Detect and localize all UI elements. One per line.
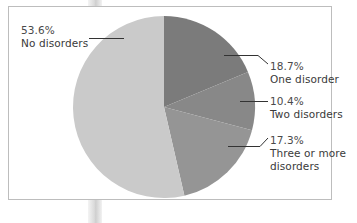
label-no-disorders: 53.6% No disorders <box>21 24 88 50</box>
label-no-disorders-name: No disorders <box>21 37 88 50</box>
label-one-disorder-name: One disorder <box>270 73 339 86</box>
label-three-or-more-name-line2: disorders <box>270 160 346 173</box>
label-no-disorders-percent: 53.6% <box>21 24 88 37</box>
label-three-or-more-name-line1: Three or more <box>270 147 346 160</box>
label-three-or-more: 17.3% Three or more disorders <box>270 134 346 173</box>
label-two-disorders: 10.4% Two disorders <box>270 95 343 121</box>
pie-slices <box>73 16 255 198</box>
label-three-or-more-percent: 17.3% <box>270 134 346 147</box>
label-two-disorders-name: Two disorders <box>270 108 343 121</box>
label-two-disorders-percent: 10.4% <box>270 95 343 108</box>
label-one-disorder-percent: 18.7% <box>270 60 339 73</box>
label-one-disorder: 18.7% One disorder <box>270 60 339 86</box>
